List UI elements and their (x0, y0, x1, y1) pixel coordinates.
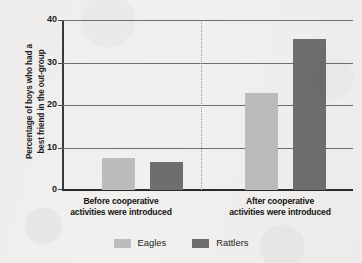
bar-eagles-after (245, 93, 278, 190)
gridline-40 (63, 20, 353, 21)
y-axis-tick-labels: 40 30 20 10 0 (29, 20, 57, 190)
y-tick-label-30: 30 (31, 58, 57, 67)
y-tick-0 (58, 189, 63, 190)
x-axis-category-label-before: Before cooperative activities were intro… (44, 196, 198, 218)
y-tick-40 (58, 20, 63, 21)
y-tick-label-40: 40 (31, 15, 57, 24)
y-tick-30 (58, 63, 63, 64)
y-tick-label-20: 20 (31, 100, 57, 109)
bar-chart-figure: Percentage of boys who had a best friend… (0, 0, 362, 263)
x-axis-category-label-after: After cooperative activities were introd… (202, 196, 358, 218)
plot-area (63, 20, 353, 190)
y-tick-label-0: 0 (31, 185, 57, 194)
legend-item-eagles: Eagles (114, 238, 167, 248)
legend-swatch-rattlers-icon (192, 239, 209, 248)
legend-label-eagles: Eagles (138, 238, 167, 248)
legend-item-rattlers: Rattlers (192, 238, 248, 248)
y-tick-10 (58, 148, 63, 149)
legend-swatch-eagles-icon (114, 239, 131, 248)
bar-rattlers-before (150, 162, 183, 190)
bar-rattlers-after (293, 39, 326, 190)
y-tick-20 (58, 105, 63, 106)
chart-legend: Eagles Rattlers (0, 238, 362, 248)
legend-label-rattlers: Rattlers (216, 238, 248, 248)
group-divider-line (201, 20, 202, 190)
y-tick-label-10: 10 (31, 143, 57, 152)
bar-eagles-before (102, 158, 135, 190)
